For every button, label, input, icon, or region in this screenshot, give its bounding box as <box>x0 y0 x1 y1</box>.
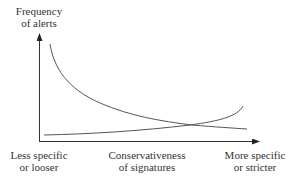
y-axis-label-line1: Frequency <box>16 5 62 17</box>
x-left-label: Less specific or looser <box>10 149 67 173</box>
x-left-label-line2: or looser <box>10 161 67 173</box>
x-right-label-line2: or stricter <box>225 161 286 173</box>
increasing-curve <box>44 106 243 135</box>
x-right-label-line1: More specific <box>225 149 286 161</box>
y-axis-label: Frequency of alerts <box>16 5 62 29</box>
chart-container: Frequency of alerts Less specific or loo… <box>0 0 300 180</box>
x-axis-label-line1: Conservativeness <box>109 149 186 161</box>
x-right-label: More specific or stricter <box>225 149 286 173</box>
y-axis-label-line2: of alerts <box>16 17 62 29</box>
x-axis-label-line2: of signatures <box>109 161 186 173</box>
decreasing-curve <box>50 44 247 129</box>
x-axis-label: Conservativeness of signatures <box>109 149 186 173</box>
x-left-label-line1: Less specific <box>10 149 67 161</box>
